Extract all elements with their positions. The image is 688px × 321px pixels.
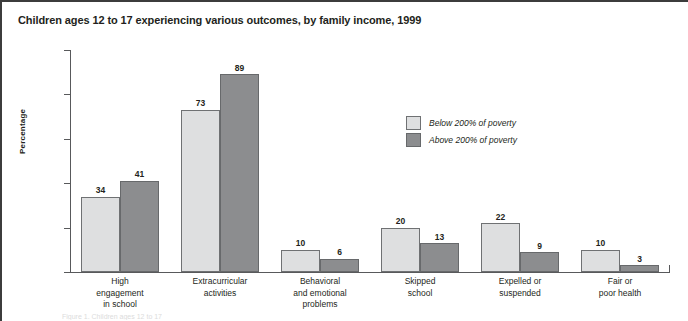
y-axis-tick (64, 139, 70, 140)
x-axis-end-tick (669, 265, 670, 273)
bar-value-label: 3 (637, 255, 642, 264)
bar-below-5: 10 (581, 250, 620, 272)
bar-above-0: 41 (120, 181, 159, 272)
bar-below-3: 20 (381, 228, 420, 272)
category-label-2: Behavioral and emotional problems (270, 276, 370, 311)
figure-panel: Children ages 12 to 17 experiencing vari… (0, 0, 688, 321)
bar-below-2: 10 (281, 250, 320, 272)
legend-item-above: Above 200% of poverty (406, 131, 517, 148)
legend-swatch-above-icon (406, 133, 421, 147)
legend-label-below: Below 200% of poverty (429, 118, 516, 128)
bar-value-label: 10 (296, 239, 305, 248)
y-axis-tick (64, 50, 70, 51)
bar-value-label: 9 (537, 242, 542, 251)
bar-value-label: 41 (135, 170, 144, 179)
bar-value-label: 20 (396, 217, 405, 226)
category-label-5: Fair or poor health (570, 276, 670, 299)
bar-above-2: 6 (320, 259, 359, 272)
bar-value-label: 73 (196, 99, 205, 108)
bar-value-label: 6 (337, 248, 342, 257)
bar-below-4: 22 (481, 223, 520, 272)
category-label-3: Skipped school (370, 276, 470, 299)
y-axis-tick (64, 183, 70, 184)
category-label-0: High engagement in school (70, 276, 170, 311)
footnote-partial: Figure 1. Children ages 12 to 17 (62, 313, 162, 320)
bar-above-4: 9 (520, 252, 559, 272)
bar-value-label: 34 (96, 186, 105, 195)
page-title: Children ages 12 to 17 experiencing vari… (18, 14, 421, 26)
x-axis-line (70, 272, 670, 273)
bar-above-3: 13 (420, 243, 459, 272)
bar-value-label: 13 (435, 233, 444, 242)
bar-value-label: 89 (235, 64, 244, 73)
category-label-4: Expelled or suspended (470, 276, 570, 299)
y-axis-tick (64, 272, 70, 273)
bar-below-1: 73 (181, 110, 220, 272)
y-axis-tick (64, 94, 70, 95)
legend: Below 200% of poverty Above 200% of pove… (406, 114, 517, 148)
legend-item-below: Below 200% of poverty (406, 114, 517, 131)
bar-value-label: 22 (496, 213, 505, 222)
plot-area: 020406080100 344173891062013229103 High … (70, 50, 670, 272)
legend-swatch-below-icon (406, 116, 421, 130)
category-label-1: Extracurricular activities (170, 276, 270, 299)
bar-value-label: 10 (596, 239, 605, 248)
legend-label-above: Above 200% of poverty (429, 135, 517, 145)
y-axis-tick (64, 228, 70, 229)
bar-below-0: 34 (81, 197, 120, 272)
bar-above-1: 89 (220, 74, 259, 272)
y-axis-line (70, 50, 71, 272)
y-axis-label: Percentage (18, 109, 27, 154)
bar-above-5: 3 (620, 265, 659, 272)
